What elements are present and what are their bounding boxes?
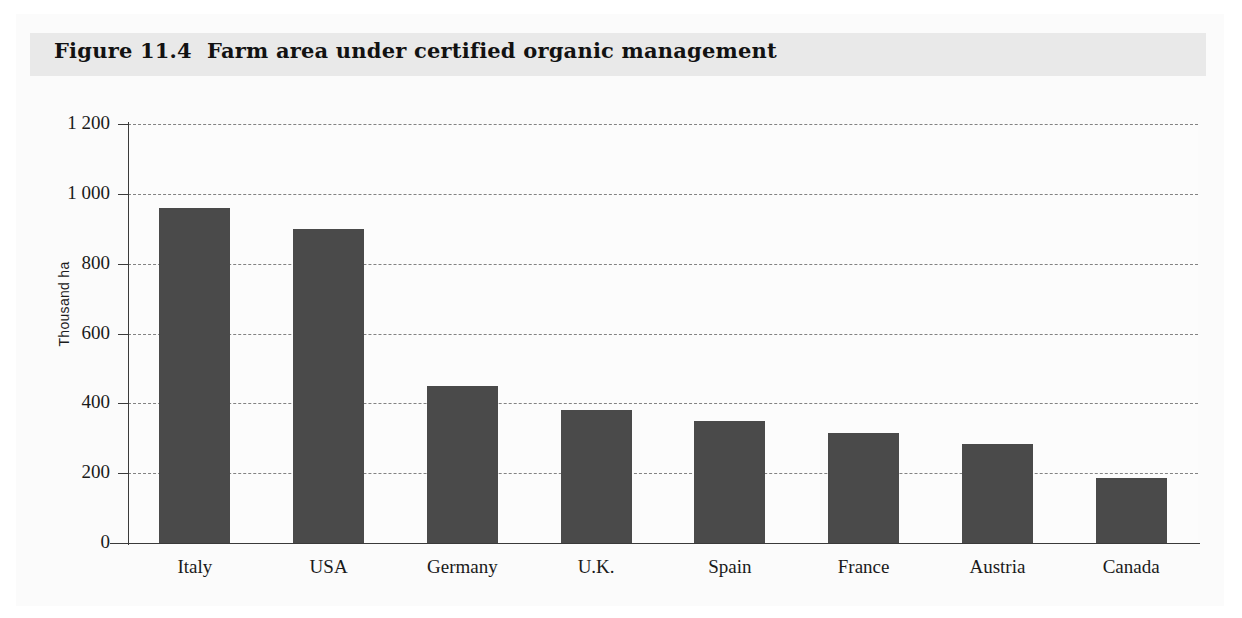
y-axis-tick-label: 0 [40,531,110,553]
y-axis-tick-mark [118,194,128,195]
bar [293,229,364,543]
y-axis-tick-mark [118,473,128,474]
bar [1096,478,1167,543]
bar [561,410,632,543]
plot-area [128,124,1198,543]
y-axis-tick-mark [118,403,128,404]
y-axis-tick-mark [118,543,128,544]
figure-title: Figure 11.4 Farm area under certified or… [54,38,777,63]
gridline [128,473,1198,474]
y-axis-tick-mark [118,124,128,125]
x-axis-tick-label: Canada [1051,556,1211,578]
y-axis-tick-label: 200 [40,461,110,483]
gridline [128,194,1198,195]
bar [427,386,498,543]
y-axis-tick-label: 1 000 [40,182,110,204]
gridline [128,124,1198,125]
figure-container: Figure 11.4 Farm area under certified or… [0,0,1242,618]
y-axis-line [128,122,129,545]
gridline [128,334,1198,335]
bar [828,433,899,543]
bar [694,421,765,543]
y-axis-tick-label: 600 [40,322,110,344]
x-axis-line [110,543,1200,544]
y-axis-tick-label: 1 200 [40,112,110,134]
y-axis-tick-mark [118,264,128,265]
y-axis-tick-mark [118,334,128,335]
gridline [128,264,1198,265]
bar [159,208,230,543]
bar [962,444,1033,544]
gridline [128,403,1198,404]
y-axis-tick-label: 800 [40,252,110,274]
y-axis-tick-label: 400 [40,391,110,413]
